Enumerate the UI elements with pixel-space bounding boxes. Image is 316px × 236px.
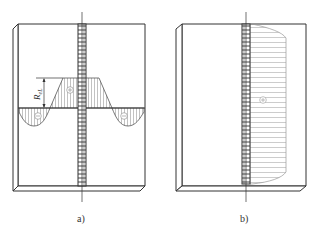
plate-b-edge-bottom bbox=[176, 186, 306, 191]
weld-stress-diagram: ReL bbox=[0, 0, 316, 236]
sign-plus-icon bbox=[260, 97, 267, 104]
plate-a-edge-bottom bbox=[13, 186, 145, 191]
sign-minus-icon bbox=[121, 113, 128, 120]
sign-plus-icon bbox=[67, 87, 74, 94]
caption-b: b) bbox=[240, 213, 248, 224]
plate-a-edge-left bbox=[13, 24, 18, 191]
sign-minus-icon bbox=[35, 113, 42, 120]
figure: ReL a) b) bbox=[0, 0, 316, 236]
panel-a: ReL bbox=[13, 12, 145, 202]
panel-b bbox=[176, 12, 306, 202]
plate-b-edge-left bbox=[176, 24, 182, 191]
tension-region-b bbox=[250, 24, 286, 184]
caption-a: a) bbox=[77, 213, 85, 224]
